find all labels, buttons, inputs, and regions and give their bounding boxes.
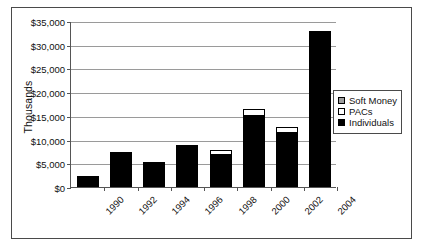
x-tick-mark [171,187,172,191]
individuals-swatch-icon [338,119,345,126]
x-axis-tick-label: 2004 [336,194,359,217]
soft-money-swatch-icon [338,97,345,104]
bar-group[interactable] [210,21,232,187]
y-tick-mark [67,69,71,70]
x-axis-tick-label: 2000 [269,194,292,217]
bar-segment-pacs[interactable] [210,150,232,155]
plot-area: $0$5,000$10,000$15,000$20,000$25,000$30,… [70,22,336,188]
x-tick-mark [304,187,305,191]
y-axis-tick-label: $5,000 [36,159,65,170]
chart-legend: Soft MoneyPACsIndividuals [333,90,402,134]
y-tick-mark [67,22,71,23]
bar-group[interactable] [176,21,198,187]
bar-segment-individuals[interactable] [243,116,265,187]
x-axis-tick-label: 1990 [103,194,126,217]
legend-item[interactable]: Soft Money [338,96,397,106]
bar-group[interactable] [309,21,331,187]
y-axis-tick-label: $35,000 [31,17,65,28]
x-axis-tick-label: 1998 [236,194,259,217]
bar-segment-individuals[interactable] [276,133,298,187]
bar-segment-pacs[interactable] [110,152,132,154]
legend-item-label: Individuals [349,118,394,128]
y-tick-mark [67,164,71,165]
bar-group[interactable] [243,21,265,187]
x-tick-mark [271,187,272,191]
bar-segment-individuals[interactable] [210,155,232,187]
legend-item-label: PACs [349,107,373,117]
y-axis-tick-label: $0 [54,183,65,194]
pacs-swatch-icon [338,108,345,115]
x-axis-tick-label: 2002 [302,194,325,217]
bar-group[interactable] [143,21,165,187]
y-axis-tick-label: $25,000 [31,64,65,75]
x-tick-mark [237,187,238,191]
bar-segment-pacs[interactable] [176,145,198,147]
x-axis-tick-label: 1994 [169,194,192,217]
bar-segment-pacs[interactable] [243,109,265,117]
y-axis-tick-label: $15,000 [31,111,65,122]
y-axis-tick-label: $10,000 [31,135,65,146]
y-tick-mark [67,141,71,142]
y-axis-tick-label: $30,000 [31,40,65,51]
y-axis-tick-label: $20,000 [31,88,65,99]
legend-item-label: Soft Money [349,96,397,106]
bar-segment-individuals[interactable] [143,164,165,187]
legend-item[interactable]: PACs [338,107,397,117]
chart-frame: Thousands $0$5,000$10,000$15,000$20,000$… [11,7,412,239]
bar-segment-individuals[interactable] [110,154,132,187]
bar-group[interactable] [110,21,132,187]
y-tick-mark [67,46,71,47]
bar-segment-pacs[interactable] [309,31,331,33]
bar-segment-pacs[interactable] [143,162,165,164]
x-axis-tick-label: 1996 [203,194,226,217]
bar-segment-pacs[interactable] [276,127,298,133]
bar-segment-individuals[interactable] [309,33,331,187]
x-tick-mark [104,187,105,191]
legend-item[interactable]: Individuals [338,118,397,128]
y-tick-mark [67,117,71,118]
y-tick-mark [67,188,71,189]
x-axis-tick-label: 1992 [136,194,159,217]
x-tick-mark [337,187,338,191]
bar-segment-individuals[interactable] [77,178,99,187]
bar-group[interactable] [77,21,99,187]
x-tick-mark [204,187,205,191]
bar-segment-individuals[interactable] [176,147,198,187]
bar-segment-pacs[interactable] [77,176,99,178]
x-tick-mark [138,187,139,191]
bar-group[interactable] [276,21,298,187]
y-tick-mark [67,93,71,94]
